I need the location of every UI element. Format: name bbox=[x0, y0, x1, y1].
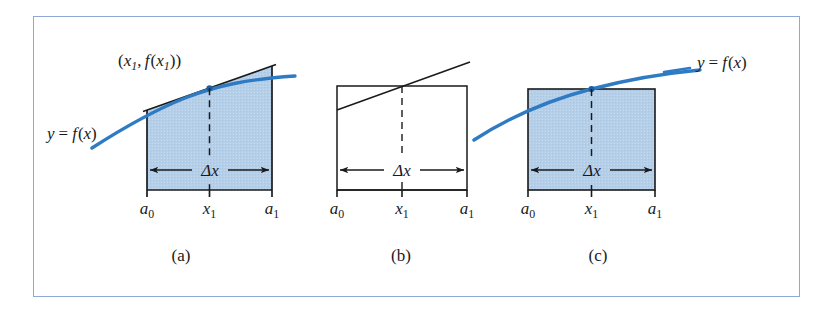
panel-a-curve-label: y=f(x) bbox=[45, 124, 97, 143]
panel-b-tick-label-mid: x1 bbox=[394, 199, 409, 221]
panel-a-tick-label-mid: x1 bbox=[202, 199, 217, 221]
panel-c-caption: (c) bbox=[589, 246, 608, 265]
panel-b: Δx a0 x1 a1 (b) bbox=[330, 62, 475, 265]
panel-c-tick-label-right: a1 bbox=[648, 199, 663, 221]
panel-c: Δx y=f(x) a0 x1 a1 (c) bbox=[474, 53, 747, 265]
panel-b-caption: (b) bbox=[391, 246, 411, 265]
panel-c-tick-label-mid: x1 bbox=[584, 199, 599, 221]
panel-c-delta-x-label: Δx bbox=[582, 161, 601, 180]
figure-root: Δx (x1, f(x1)) y=f(x) a0 x1 a1 (a) bbox=[0, 0, 831, 314]
panel-a-delta-x-label: Δx bbox=[200, 161, 219, 180]
panel-a-point-label: (x1, f(x1)) bbox=[118, 51, 181, 73]
panel-a-tick-label-right: a1 bbox=[265, 199, 280, 221]
panel-a-caption: (a) bbox=[172, 246, 191, 265]
panel-b-tick-label-left: a0 bbox=[330, 199, 345, 221]
figure-canvas: Δx (x1, f(x1)) y=f(x) a0 x1 a1 (a) bbox=[0, 0, 831, 314]
panel-a: Δx (x1, f(x1)) y=f(x) a0 x1 a1 (a) bbox=[45, 51, 295, 265]
panel-b-tick-label-right: a1 bbox=[460, 199, 475, 221]
panel-c-tick-label-left: a0 bbox=[521, 199, 536, 221]
panel-a-tick-label-left: a0 bbox=[140, 199, 155, 221]
panel-b-delta-x-label: Δx bbox=[392, 161, 411, 180]
panel-c-curve-label: y=f(x) bbox=[695, 53, 747, 72]
